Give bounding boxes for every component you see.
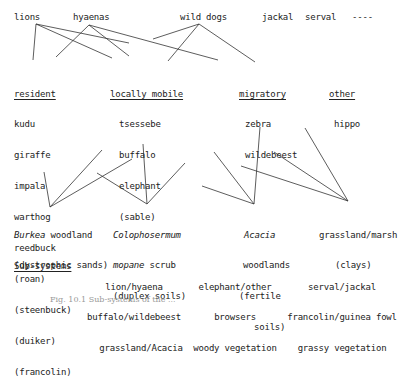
habitat-burkea-type: woodland: [45, 230, 92, 240]
group-heading-other: other: [329, 89, 360, 99]
prey-item: (francolin): [14, 367, 71, 377]
prey-item: tsessebe: [110, 119, 183, 129]
subsystem-line: grassy vegetation: [283, 343, 401, 353]
subsystems-heading: Sub-systems: [14, 261, 71, 271]
prey-item: (steenbuck): [14, 305, 71, 315]
predator-serval: serval: [305, 12, 336, 22]
subsystem-line: buffalo/wildebeest: [84, 312, 184, 322]
subsystem-line: francolin/guinea fowl: [283, 312, 401, 322]
habitat-grassland-type: grassland/marsh: [319, 230, 397, 240]
group-heading-resident: resident: [14, 89, 71, 99]
habitat-acacia-genus: Acacia: [239, 230, 290, 240]
group-other: other hippo: [329, 68, 360, 140]
prey-item: buffalo: [110, 150, 183, 160]
predator-jackal: jackal: [262, 12, 293, 22]
prey-item: giraffe: [14, 150, 71, 160]
predator-hyaenas: hyaenas: [73, 12, 110, 22]
habitat-colophospermum-genus: Colophosermum: [113, 230, 186, 240]
prey-item: hippo: [329, 119, 360, 129]
subsystem-line: grassland/Acacia: [84, 343, 184, 353]
prey-item: wildebeest: [239, 150, 297, 160]
subsystem-line: lion/hyaena: [84, 282, 184, 292]
predator-lions: lions: [14, 12, 40, 22]
habitat-burkea-genus: Burkea: [14, 230, 45, 240]
subsystem-group: lion/hyaena buffalo/wildebeest grassland…: [84, 261, 184, 364]
group-heading-migratory: migratory: [239, 89, 297, 99]
subsystem-group: elephant/other browsers woody vegetation: [190, 261, 280, 364]
predator-wild-dogs: wild dogs: [180, 12, 227, 22]
group-migratory: migratory zebra wildebeest: [239, 68, 297, 171]
group-heading-locally-mobile: locally mobile: [110, 89, 183, 99]
subsystem-line: serval/jackal: [283, 282, 401, 292]
figure-caption: Fig. 10.1 Sub-systems of the ...: [50, 295, 176, 304]
prey-item: kudu: [14, 119, 71, 129]
subsystem-line: woody vegetation: [190, 343, 280, 353]
subsystem-line: browsers: [190, 312, 280, 322]
prey-item: zebra: [239, 119, 297, 129]
prey-item: impala: [14, 181, 71, 191]
prey-item: (duiker): [14, 336, 71, 346]
prey-item: elephant: [110, 181, 183, 191]
subsystem-group: serval/jackal francolin/guinea fowl gras…: [283, 261, 401, 364]
subsystem-line: elephant/other: [190, 282, 280, 292]
predator-dashes: ----: [352, 12, 373, 22]
